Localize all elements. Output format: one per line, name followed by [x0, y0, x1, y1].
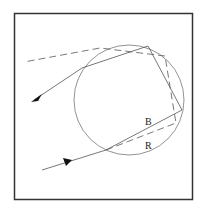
incoming-ray [42, 150, 106, 170]
water-droplet-circle [74, 45, 184, 155]
label-blue: B [145, 116, 152, 127]
outgoing-blue-arrow-icon [31, 94, 44, 102]
label-red: R [145, 140, 152, 151]
frame-border [15, 14, 193, 200]
rainbow-diagram: B R [0, 0, 202, 211]
incoming-arrow-icon [63, 158, 72, 166]
blue-ray-path [34, 46, 182, 150]
red-ray-path [24, 48, 176, 150]
